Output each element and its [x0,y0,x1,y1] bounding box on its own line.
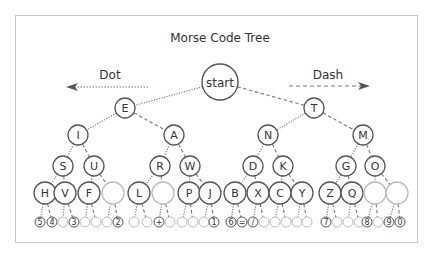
node-label: O [371,160,380,173]
empty-node [386,182,408,204]
tree-leaves: 5432+16=/7890 [35,217,405,227]
node-label: C [276,187,284,200]
dot-edge [205,204,208,217]
dot-edge [91,176,92,182]
dash-edge [367,144,372,156]
node-label: G [342,160,351,173]
node-label: M [358,129,368,142]
empty-leaf [302,217,312,227]
leaf-label: 3 [71,218,76,227]
empty-leaf [91,217,101,227]
node-label: X [254,187,262,200]
dot-edge [351,144,358,157]
diagram-title: Morse Code Tree [170,31,270,45]
empty-leaf [102,217,112,227]
dash-edge [92,204,95,217]
empty-leaf [80,217,90,227]
leaf-label: 4 [49,218,54,227]
dot-edge [281,176,282,182]
dash-edge [134,113,165,130]
dot-edge [67,144,73,157]
node-label: V [61,187,69,200]
dot-edge [183,204,186,217]
node-label: J [207,187,211,200]
dot-edge [298,204,300,217]
dot-edge [51,174,57,184]
empty-node [152,182,174,204]
dot-edge [135,87,203,106]
dash-edge [238,204,241,217]
dash-edge [255,176,256,182]
dot-edge [349,204,351,217]
node-label: N [264,129,272,142]
empty-leaf [281,217,291,227]
node-label: B [231,187,239,200]
empty-leaf [343,217,353,227]
leaf-label: 6 [228,218,233,227]
dash-edge [166,204,169,217]
empty-leaf [165,217,175,227]
leaf-label: 8 [364,218,369,227]
node-label: E [122,102,129,115]
dash-edge [48,204,51,217]
empty-leaf [58,217,68,227]
dash-edge [212,204,214,217]
node-label: Q [348,187,357,200]
node-label: U [90,160,98,173]
empty-leaf [332,217,342,227]
dot-edge [164,144,170,157]
dot-edge [336,175,341,184]
dot-edge [160,204,162,217]
empty-node [102,182,124,204]
leaf-label: 7 [323,218,328,227]
dash-edge [282,204,285,217]
node-label: I [76,129,79,142]
dash-edge [115,204,117,217]
dash-edge [68,204,72,218]
dash-legend: Dash [289,68,370,90]
dash-edge [83,144,90,157]
node-label: A [170,129,178,142]
dot-edge [368,204,372,218]
dot-edge [135,204,137,217]
dot-legend: Dot [66,68,148,91]
morse-tree-diagram: Morse Code Tree Dot Dash startETIANMSURW… [0,0,433,257]
dash-edge [376,204,377,217]
dot-edge [257,144,263,157]
dot-edge [86,204,88,217]
dot-edge [241,174,247,184]
dot-edge [108,204,111,217]
dot-edge [276,204,278,217]
dash-edge [348,176,349,183]
dot-edge [146,174,154,184]
leaf-label: + [156,218,163,227]
dash-edge [323,113,354,130]
dot-edge [390,204,394,218]
dash-edge [196,174,204,184]
dash-edge [237,87,304,106]
node-label: D [249,160,257,173]
root-node-label: start [206,76,234,90]
empty-leaf [129,217,139,227]
empty-leaf [270,217,280,227]
dot-edge [63,204,64,217]
node-label: T [310,102,318,115]
leaf-label: 0 [397,218,402,227]
dash-edge [191,204,193,217]
dash-label: Dash [313,68,343,82]
dot-edge [41,204,43,217]
node-label: P [186,187,193,200]
node-label: F [86,187,92,200]
dash-edge [289,174,296,184]
dash-edge [381,174,390,185]
node-label: R [156,160,164,173]
dot-edge [327,204,329,217]
arrow-left-icon [66,83,78,91]
dash-edge [179,144,186,157]
leaf-label: = [239,218,246,227]
dot-label: Dot [99,68,121,82]
dash-edge [398,204,399,217]
dash-edge [333,204,336,217]
empty-leaf [188,217,198,227]
node-label: L [136,187,143,200]
